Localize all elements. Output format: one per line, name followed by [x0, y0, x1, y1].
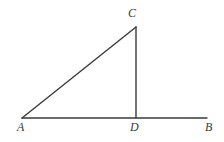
figure-background [0, 0, 224, 142]
vertex-label-b: B [205, 121, 212, 133]
vertex-label-d: D [130, 121, 139, 133]
vertex-label-a: A [17, 121, 24, 133]
vertex-label-c: C [128, 7, 136, 19]
geometry-canvas [0, 0, 224, 142]
geometry-figure: A D B C [0, 0, 224, 142]
